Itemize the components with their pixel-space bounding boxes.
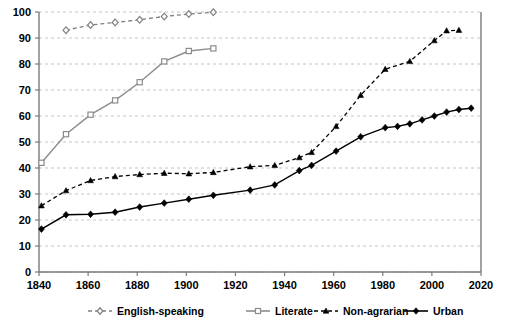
- legend-marker: [256, 309, 261, 314]
- y-tick-label-20: 20: [19, 214, 31, 226]
- x-tick-label-1860: 1860: [76, 279, 100, 291]
- legend-item-urban[interactable]: Urban: [404, 305, 463, 317]
- series-english-speaking: [63, 9, 216, 34]
- data-point-4: [137, 204, 143, 211]
- y-tick-label-90: 90: [19, 32, 31, 44]
- x-tick-label-2020: 2020: [469, 279, 493, 291]
- data-point-7: [210, 192, 216, 199]
- x-tick-label-1940: 1940: [272, 279, 296, 291]
- x-tick-label-1840: 1840: [27, 279, 51, 291]
- chart-legend: English-speakingLiterateNon-agrarianUrba…: [88, 305, 463, 317]
- x-tick-label-1900: 1900: [174, 279, 198, 291]
- data-point-4: [161, 13, 167, 20]
- data-point-6: [186, 48, 191, 53]
- data-point-9: [272, 182, 278, 189]
- series-line: [41, 30, 458, 206]
- data-point-20: [456, 106, 462, 113]
- data-point-1: [63, 132, 68, 137]
- legend-marker: [97, 308, 103, 315]
- data-series: [38, 9, 474, 233]
- data-point-0: [63, 27, 69, 34]
- line-chart: 0102030405060708090100 18401860188019001…: [0, 0, 509, 324]
- data-point-17: [444, 28, 450, 33]
- data-point-15: [407, 58, 413, 63]
- y-tick-label-30: 30: [19, 188, 31, 200]
- x-tick-label-1980: 1980: [371, 279, 395, 291]
- legend-label: Urban: [433, 305, 463, 317]
- data-point-19: [444, 109, 450, 116]
- data-point-6: [210, 9, 216, 16]
- series-line: [41, 108, 471, 229]
- data-point-17: [419, 117, 425, 124]
- data-point-4: [137, 80, 142, 85]
- legend-label: English-speaking: [117, 305, 204, 317]
- data-point-15: [395, 123, 401, 130]
- data-point-0: [39, 160, 44, 165]
- data-point-13: [358, 133, 364, 140]
- data-point-1: [88, 22, 94, 29]
- gridlines: [39, 12, 481, 272]
- data-point-3: [113, 98, 118, 103]
- y-tick-label-50: 50: [19, 136, 31, 148]
- x-tick-label-1920: 1920: [223, 279, 247, 291]
- x-axis-tick-labels: 1840186018801900192019401960198020002020: [27, 272, 493, 291]
- legend-marker: [413, 308, 419, 315]
- data-point-21: [468, 105, 474, 112]
- series-urban: [38, 105, 474, 233]
- data-point-7: [211, 46, 216, 51]
- data-point-5: [162, 59, 167, 64]
- x-tick-label-1880: 1880: [125, 279, 149, 291]
- legend-item-literate[interactable]: Literate: [246, 305, 313, 317]
- x-tick-label-1960: 1960: [321, 279, 345, 291]
- data-point-2: [88, 112, 93, 117]
- legend-label: Literate: [275, 305, 313, 317]
- data-point-3: [112, 174, 118, 179]
- data-point-1: [63, 211, 69, 218]
- data-point-2: [112, 19, 118, 26]
- y-tick-label-80: 80: [19, 58, 31, 70]
- y-tick-label-10: 10: [19, 240, 31, 252]
- data-point-18: [456, 27, 462, 32]
- y-tick-label-60: 60: [19, 110, 31, 122]
- data-point-5: [161, 200, 167, 207]
- x-tick-label-2000: 2000: [420, 279, 444, 291]
- data-point-2: [88, 211, 94, 218]
- legend-label: Non-agrarian: [343, 305, 408, 317]
- series-non-agrarian: [39, 27, 462, 208]
- legend-item-english-speaking[interactable]: English-speaking: [88, 305, 204, 317]
- chart-container: 0102030405060708090100 18401860188019001…: [0, 0, 509, 324]
- data-point-14: [382, 124, 388, 131]
- data-point-8: [247, 187, 253, 194]
- y-tick-label-0: 0: [25, 266, 31, 278]
- data-point-12: [333, 148, 339, 155]
- y-axis-tick-labels: 0102030405060708090100: [13, 6, 39, 278]
- data-point-16: [407, 120, 413, 127]
- data-point-3: [137, 16, 143, 23]
- data-point-3: [112, 209, 118, 216]
- series-line: [41, 48, 213, 162]
- y-tick-label-40: 40: [19, 162, 31, 174]
- y-tick-label-100: 100: [13, 6, 31, 18]
- y-tick-label-70: 70: [19, 84, 31, 96]
- legend-item-non-agrarian[interactable]: Non-agrarian: [314, 305, 408, 317]
- data-point-18: [431, 113, 437, 120]
- data-point-6: [186, 196, 192, 203]
